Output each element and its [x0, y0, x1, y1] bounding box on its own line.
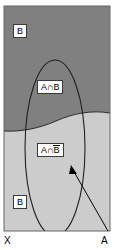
axis-label-x: X — [4, 235, 11, 246]
label-region-a-intersect-b-complement: A∩B — [37, 143, 64, 157]
label-region-a-intersect-b: A∩B — [37, 80, 63, 94]
venn-diagram: B A∩B A∩B B X A — [0, 0, 114, 250]
label-region-b-upper: B — [13, 24, 27, 38]
label-prefix-a-intersect: A∩ — [41, 145, 53, 155]
axis-label-a: A — [101, 235, 108, 246]
label-overlined-b: B — [53, 145, 59, 155]
label-region-b-lower: B — [13, 195, 27, 209]
